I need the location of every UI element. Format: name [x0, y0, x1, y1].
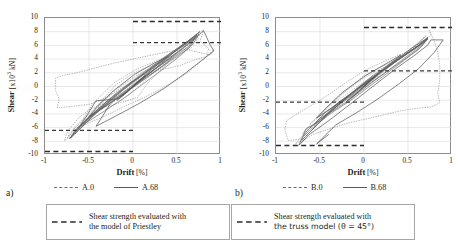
panel-a-ytick-m8: -8 — [22, 137, 38, 144]
panel-a-legend-item-a68[interactable]: A.68 — [114, 183, 158, 192]
panel-b-legend-label-b0: B.0 — [311, 183, 323, 192]
panel-a-series-legend: A.0 A.68 — [54, 183, 158, 192]
panel-b-xtick-0: 0 — [351, 157, 375, 164]
panel-a-x-axis-label: Drift [%] — [44, 168, 220, 177]
panel-b-ytick-0: 0 — [253, 82, 269, 89]
panel-a-ytick-6: 6 — [22, 41, 38, 48]
panel-b-x-axis-label: Drift [%] — [275, 168, 451, 177]
panel-a-ytick-0: 0 — [22, 82, 38, 89]
panel-b-ytick-m6: -6 — [253, 123, 269, 130]
dashed-line-icon — [283, 187, 307, 188]
panel-a-legend-item-a0[interactable]: A.0 — [54, 183, 94, 192]
panel-b-ytick-10: 10 — [253, 13, 269, 20]
panel-b-legend-label-b68: B.68 — [371, 183, 387, 192]
panel-b-legend-item-b68[interactable]: B.68 — [343, 183, 387, 192]
solid-line-icon — [114, 187, 138, 188]
panel-a: Shear [x103 kN] 10 8 6 4 2 0 -2 -4 -6 -8… — [0, 0, 229, 180]
capacity-legend-priestley-text: Shear strength evaluated with the model … — [89, 212, 186, 233]
panel-a-y-axis-unit-open: [x10 — [7, 75, 16, 89]
capacity-legend-truss-line2: the truss model (θ = 45°) — [274, 222, 374, 231]
panel-a-ytick-m6: -6 — [22, 123, 38, 130]
panel-b-plot-svg — [276, 18, 452, 155]
panel-a-letter: a) — [6, 187, 13, 198]
panel-a-legend-label-a68: A.68 — [142, 183, 158, 192]
panel-b-ytick-8: 8 — [253, 27, 269, 34]
panel-a-legend-label-a0: A.0 — [82, 183, 94, 192]
panel-b-xtick-1: 1 — [439, 157, 458, 164]
panel-b-x-axis-title: Drift — [348, 168, 366, 177]
panel-b-ytick-m2: -2 — [253, 96, 269, 103]
panel-b-y-axis-label: Shear [x103 kN] — [237, 50, 248, 120]
panel-b-ytick-6: 6 — [253, 41, 269, 48]
panel-b-ytick-2: 2 — [253, 68, 269, 75]
panel-b-ytick-4: 4 — [253, 54, 269, 61]
panel-a-x-axis-unit: [%] — [136, 168, 147, 177]
panel-a-ytick-m2: -2 — [22, 96, 38, 103]
panel-a-y-axis-label: Shear [x103 kN] — [6, 50, 17, 120]
panel-a-x-axis-title: Drift — [117, 168, 135, 177]
solid-line-icon — [343, 187, 367, 188]
panel-a-ytick-8: 8 — [22, 27, 38, 34]
panel-a-y-axis-unit-close: kN] — [7, 58, 16, 72]
panel-b-xtick-m05: -0.5 — [307, 157, 331, 164]
panel-b-y-axis-unit-close: kN] — [238, 58, 247, 72]
hysteresis-figure: Shear [x103 kN] 10 8 6 4 2 0 -2 -4 -6 -8… — [0, 0, 458, 245]
panel-b-legend-item-b0[interactable]: B.0 — [283, 183, 323, 192]
panel-a-plot-area — [44, 17, 220, 154]
panel-b-xtick-m1: -1 — [263, 157, 287, 164]
capacity-legend-truss-line1: Shear strength evaluated with — [274, 212, 371, 221]
panel-a-xtick-05: 0.5 — [164, 157, 188, 164]
dashed-line-icon — [54, 187, 78, 188]
panel-a-ytick-m4: -4 — [22, 109, 38, 116]
capacity-legend-priestley-line2: the model of Priestley — [89, 222, 161, 231]
panel-b-letter: b) — [235, 187, 243, 198]
panel-b-y-axis-title: Shear — [238, 91, 247, 112]
panel-a-ytick-4: 4 — [22, 54, 38, 61]
panel-b-plot-area — [275, 17, 451, 154]
capacity-legend-truss: Shear strength evaluated with the truss … — [231, 204, 415, 240]
panel-a-plot-svg — [45, 18, 221, 155]
capacity-legend-priestley: Shear strength evaluated with the model … — [46, 204, 230, 240]
capacity-legend-truss-text: Shear strength evaluated with the truss … — [274, 212, 374, 233]
panel-a-y-axis-title: Shear — [7, 91, 16, 112]
panel-a-y-axis-unit-exponent: 3 — [6, 72, 12, 75]
panel-b-ytick-m4: -4 — [253, 109, 269, 116]
panel-a-ytick-2: 2 — [22, 68, 38, 75]
panel-a-xtick-0: 0 — [120, 157, 144, 164]
panel-b-x-axis-unit: [%] — [367, 168, 378, 177]
dashed-capacity-line-icon — [237, 217, 267, 227]
dashed-capacity-line-icon — [52, 217, 82, 227]
panel-b-y-axis-unit-open: [x10 — [238, 75, 247, 89]
panel-b-xtick-05: 0.5 — [395, 157, 419, 164]
panel-b-series-legend: B.0 B.68 — [283, 183, 386, 192]
panel-b-ytick-m8: -8 — [253, 137, 269, 144]
panel-b-y-axis-unit-exponent: 3 — [237, 72, 243, 75]
panel-a-series-a68 — [70, 30, 214, 138]
capacity-legend-priestley-line1: Shear strength evaluated with — [89, 212, 186, 221]
panel-a-xtick-m1: -1 — [32, 157, 56, 164]
panel-a-ytick-10: 10 — [22, 13, 38, 20]
panel-b-series-b68 — [299, 39, 443, 146]
panel-b: Shear [x103 kN] 10 8 6 4 2 0 -2 -4 -6 -8… — [229, 0, 458, 180]
panel-a-xtick-m05: -0.5 — [76, 157, 100, 164]
